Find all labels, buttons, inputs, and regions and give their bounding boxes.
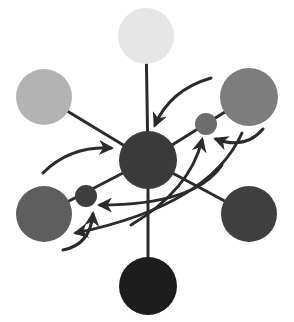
node-top — [118, 8, 174, 64]
network-diagram: hub-and-spoke network with curved flow a… — [0, 0, 294, 322]
arrow-left-to-hub — [43, 148, 111, 173]
node-lower-left — [16, 186, 72, 242]
satellite-upper-right — [195, 113, 217, 135]
node-lower-right — [221, 186, 277, 242]
hub-node — [119, 131, 177, 189]
diagram-canvas — [0, 0, 294, 322]
node-bottom — [119, 257, 177, 315]
node-upper-left — [16, 69, 72, 125]
satellite-lower-left — [75, 185, 97, 207]
node-upper-right — [220, 68, 278, 126]
